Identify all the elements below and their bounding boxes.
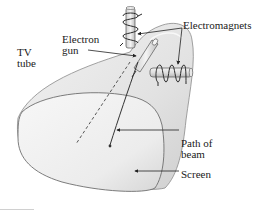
label-electromagnets: Electromagnets — [183, 20, 251, 31]
footer-divider — [0, 209, 34, 210]
label-path-of-beam: Path of beam — [181, 138, 212, 160]
label-tv-tube: TV tube — [17, 47, 36, 69]
label-screen-text: Screen — [181, 169, 211, 180]
beam-spot — [109, 145, 112, 148]
screen-face — [18, 93, 164, 192]
label-electron-gun-line2: gun — [62, 45, 99, 56]
label-path-of-beam-line2: beam — [181, 149, 212, 160]
label-electron-gun: Electron gun — [62, 34, 99, 56]
label-tv-tube-line2: tube — [17, 58, 36, 69]
label-screen: Screen — [181, 169, 211, 180]
label-electromagnets-text: Electromagnets — [183, 20, 251, 31]
tv-tube-diagram — [0, 0, 263, 211]
